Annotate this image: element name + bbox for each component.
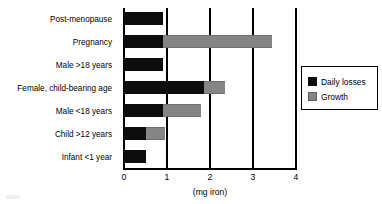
bar-segment-daily-losses — [124, 81, 204, 94]
chart-screenshot: Post-menopausePregnancyMale >18 yearsFem… — [0, 0, 382, 204]
bar-row — [124, 146, 296, 169]
x-tick-3: 3 — [243, 172, 263, 182]
daily-losses-swatch — [308, 77, 317, 86]
legend-label-1: Growth — [321, 90, 348, 104]
y-axis-label-5: Child >12 years — [55, 123, 112, 146]
bar-row — [124, 8, 296, 31]
y-axis-label-2: Male >18 years — [56, 54, 112, 77]
x-tick-0: 0 — [114, 172, 134, 182]
scan-artifact — [6, 195, 20, 199]
x-axis-title: (mg iron) — [124, 187, 296, 197]
legend-box: Daily lossesGrowth — [301, 66, 378, 110]
bar-segment-daily-losses — [124, 104, 163, 117]
bar-row — [124, 77, 296, 100]
bar-segment-daily-losses — [124, 127, 146, 140]
bar-row — [124, 123, 296, 146]
bar-segment-growth — [163, 35, 273, 48]
bar-segment-growth — [204, 81, 226, 94]
y-axis-label-3: Female, child-bearing age — [17, 77, 112, 100]
plot-area — [124, 8, 296, 169]
growth-swatch — [308, 92, 317, 101]
x-tick-4: 4 — [286, 172, 306, 182]
bar-segment-daily-losses — [124, 58, 163, 71]
bar-row — [124, 54, 296, 77]
bar-row — [124, 31, 296, 54]
x-tick-1: 1 — [157, 172, 177, 182]
bar-segment-growth — [163, 104, 201, 117]
bar-segment-daily-losses — [124, 35, 163, 48]
bar-segment-growth — [146, 127, 165, 140]
bar-segment-daily-losses — [124, 150, 146, 163]
y-axis-label-1: Pregnancy — [73, 31, 112, 54]
x-tick-2: 2 — [200, 172, 220, 182]
bar-segment-daily-losses — [124, 12, 163, 25]
y-axis-label-6: Infant <1 year — [62, 146, 112, 169]
y-axis-label-4: Male <18 years — [56, 100, 112, 123]
y-axis-label-0: Post-menopause — [50, 8, 112, 31]
y-axis-category-labels: Post-menopausePregnancyMale >18 yearsFem… — [0, 8, 116, 169]
legend-label-0: Daily losses — [321, 75, 366, 89]
bar-row — [124, 100, 296, 123]
